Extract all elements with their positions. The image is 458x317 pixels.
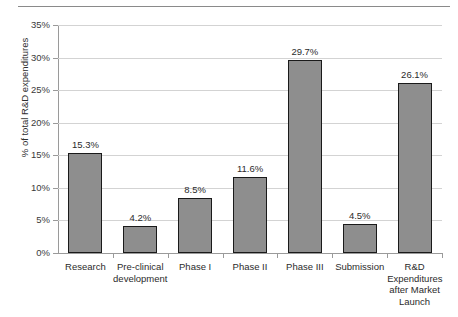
bar-value-label: 15.3% <box>55 140 115 150</box>
x-category-label: Phase III <box>277 261 332 273</box>
x-category-label-line: Phase II <box>223 261 278 273</box>
x-category-label: Pre-clinicaldevelopment <box>113 261 168 284</box>
bar-value-label: 26.1% <box>385 70 445 80</box>
y-tick-label: 25% <box>12 85 50 95</box>
bar-5[interactable] <box>288 60 322 253</box>
bar-7[interactable] <box>398 83 432 253</box>
bar-value-label: 29.7% <box>275 47 335 57</box>
x-tick-mark <box>387 253 388 258</box>
bar-1[interactable] <box>68 153 102 253</box>
y-tick-label: 30% <box>12 53 50 63</box>
x-category-label: Research <box>58 261 113 273</box>
bar-chart: % of total R&D expenditures 0%5%10%15%20… <box>0 0 458 317</box>
y-tick-label: 15% <box>12 150 50 160</box>
x-tick-mark <box>113 253 114 258</box>
gridline-35% <box>58 25 442 26</box>
x-category-label: R&DExpendituresafter MarketLaunch <box>387 261 442 307</box>
y-tick-label: 20% <box>12 118 50 128</box>
chart-screenshot: % of total R&D expenditures 0%5%10%15%20… <box>0 0 458 317</box>
y-tick-label: 0% <box>12 248 50 258</box>
bar-value-label: 8.5% <box>165 185 225 195</box>
x-category-label-line: Expenditures <box>387 273 442 285</box>
y-tick-label: 10% <box>12 183 50 193</box>
y-tick-label: 35% <box>12 20 50 30</box>
x-category-label: Submission <box>332 261 387 273</box>
gridline-15% <box>58 155 442 156</box>
x-category-label-line: Phase III <box>277 261 332 273</box>
y-tick-label: 5% <box>12 215 50 225</box>
bar-value-label: 4.5% <box>330 211 390 221</box>
plot-area: 15.3%4.2%8.5%11.6%29.7%4.5%26.1% <box>58 25 442 253</box>
x-tick-mark <box>168 253 169 258</box>
x-category-label-line: Phase I <box>168 261 223 273</box>
x-category-label-line: R&D <box>387 261 442 273</box>
bar-3[interactable] <box>178 198 212 253</box>
bar-4[interactable] <box>233 177 267 253</box>
x-tick-mark <box>277 253 278 258</box>
bar-value-label: 4.2% <box>110 213 170 223</box>
x-category-label-line: after Market <box>387 284 442 296</box>
x-tick-mark <box>442 253 443 258</box>
x-tick-mark <box>223 253 224 258</box>
gridline-20% <box>58 123 442 124</box>
x-category-label-line: development <box>113 273 168 285</box>
x-tick-mark <box>332 253 333 258</box>
bar-value-label: 11.6% <box>220 164 280 174</box>
x-category-label-line: Launch <box>387 296 442 308</box>
gridline-30% <box>58 58 442 59</box>
gridline-0% <box>58 253 442 254</box>
x-category-label: Phase I <box>168 261 223 273</box>
x-category-label-line: Submission <box>332 261 387 273</box>
bar-6[interactable] <box>343 224 377 253</box>
bar-2[interactable] <box>123 226 157 253</box>
x-category-label-line: Pre-clinical <box>113 261 168 273</box>
x-category-label-line: Research <box>58 261 113 273</box>
gridline-25% <box>58 90 442 91</box>
x-category-label: Phase II <box>223 261 278 273</box>
